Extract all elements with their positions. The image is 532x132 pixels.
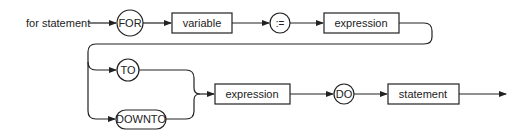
downto-merge-connector bbox=[166, 94, 200, 119]
diagram-title: for statement bbox=[26, 17, 90, 29]
assign-operator: := bbox=[276, 18, 285, 29]
variable-label: variable bbox=[183, 17, 222, 29]
statement-label: statement bbox=[399, 88, 447, 100]
to-merge-connector bbox=[139, 70, 200, 94]
expression1-label: expression bbox=[334, 17, 387, 29]
syntax-diagram: for statement FOR variable := expression… bbox=[0, 0, 532, 132]
expression2-label: expression bbox=[225, 88, 278, 100]
for-keyword: FOR bbox=[118, 17, 141, 29]
downto-keyword: DOWNTO bbox=[116, 113, 166, 125]
arrow-to-to bbox=[88, 62, 116, 70]
to-keyword: TO bbox=[120, 64, 136, 76]
do-keyword: DO bbox=[336, 88, 353, 100]
